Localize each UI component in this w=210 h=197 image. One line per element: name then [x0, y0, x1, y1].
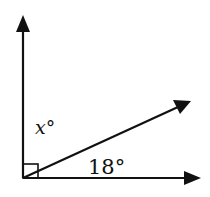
angle-diagram: x° 18° [0, 0, 210, 197]
x-angle-label: x° [35, 116, 55, 138]
arrowhead-up-icon [16, 15, 30, 32]
given-angle-label: 18° [88, 155, 125, 179]
arrowhead-right-icon [184, 171, 201, 185]
